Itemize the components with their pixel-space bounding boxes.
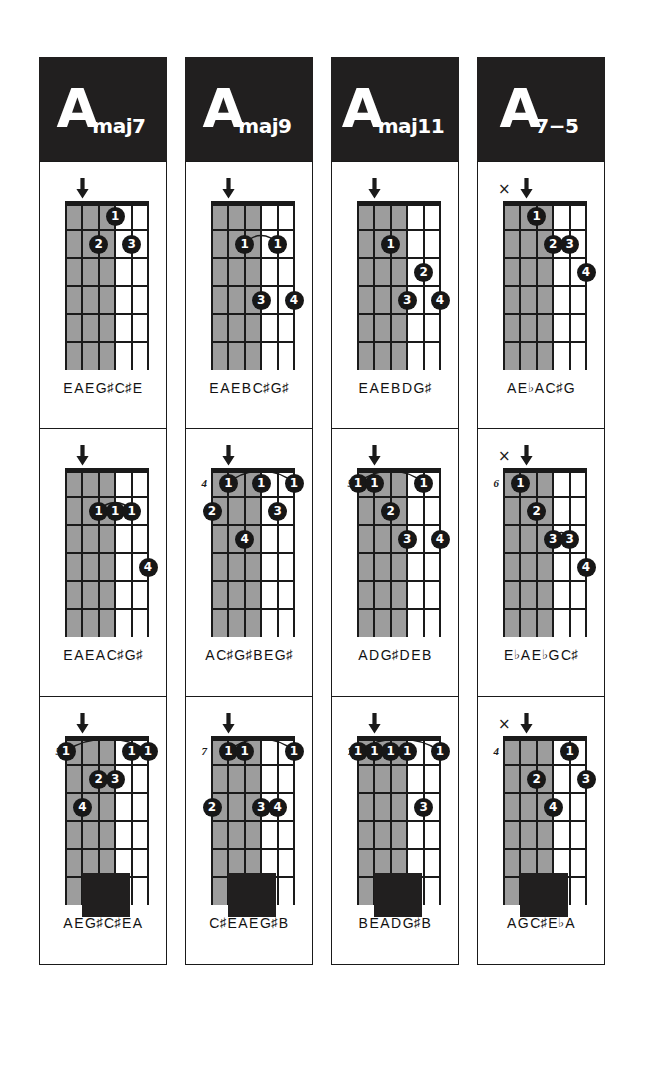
- mute-x-icon: ×: [498, 717, 511, 732]
- top-marks: [352, 713, 444, 735]
- note-name: E: [209, 380, 219, 396]
- chord-diagram-amaj11-v3: 1111137BEADG♯B: [332, 697, 458, 964]
- note-name: B: [242, 380, 252, 396]
- voicing-card-amaj7-v2[interactable]: 1114EAEAC♯G♯: [39, 429, 167, 697]
- sharp-icon: ♯: [220, 915, 227, 930]
- finger-dot: 4: [577, 263, 596, 282]
- note-name: A: [238, 915, 248, 931]
- note-name: G: [518, 915, 529, 931]
- finger-dot: 1: [381, 235, 400, 254]
- finger-dot: 1: [235, 742, 254, 761]
- note-name: A: [565, 915, 575, 931]
- chord-column-amaj11: Amaj111234EAEBDG♯1112345ADG♯DEB1111137BE…: [331, 57, 459, 965]
- top-marks: ×: [498, 445, 590, 467]
- chord-diagram-amaj9-v2: 1112344AC♯G♯BEG♯: [186, 429, 312, 696]
- note-name: C♯: [253, 380, 270, 396]
- fret-line: [212, 285, 294, 287]
- finger-dot: 4: [73, 798, 92, 817]
- note-name: E: [133, 380, 143, 396]
- root-arrow-icon: [368, 445, 381, 466]
- fret-line: [358, 229, 440, 231]
- voicing-card-amaj11-v2[interactable]: 1112345ADG♯DEB: [331, 429, 459, 697]
- note-name: C♯: [209, 915, 226, 931]
- fretboard-grid: 111234: [358, 469, 440, 637]
- fret-line: [504, 524, 586, 526]
- note-name: G♯: [96, 380, 114, 396]
- finger-dot: 1: [511, 474, 530, 493]
- fretboard-grid: 1234: [504, 202, 586, 370]
- voicing-card-a7-5-v3[interactable]: ×12344AGC♯E♭A: [477, 697, 605, 965]
- sharp-icon: ♯: [556, 380, 563, 395]
- note-name: A: [369, 380, 379, 396]
- note-name: E: [359, 380, 369, 396]
- note-name: E: [411, 647, 421, 663]
- finger-dot: 1: [527, 207, 546, 226]
- fret-position-number: 7: [337, 746, 353, 757]
- note-name: A: [220, 380, 230, 396]
- voicing-card-amaj9-v2[interactable]: 1112344AC♯G♯BEG♯: [185, 429, 313, 697]
- note-name: B: [253, 647, 263, 663]
- fret-line: [212, 764, 294, 766]
- note-name: B: [391, 380, 401, 396]
- voicing-card-amaj11-v3[interactable]: 1111137BEADG♯B: [331, 697, 459, 965]
- finger-dot: 1: [414, 474, 433, 493]
- nut-bar: [503, 736, 587, 741]
- note-name: C♯: [530, 915, 547, 931]
- finger-dot: 1: [560, 742, 579, 761]
- finger-dot: 1: [219, 474, 238, 493]
- note-name: E♭: [532, 647, 548, 663]
- column-tab-a7-5: [520, 873, 568, 917]
- chord-diagram-a7-5-v2: ×123346E♭AE♭GC♯: [478, 429, 604, 696]
- fret-line: [358, 792, 440, 794]
- fret-line: [212, 229, 294, 231]
- root-arrow-icon: [222, 445, 235, 466]
- finger-dot: 1: [285, 474, 304, 493]
- fret-line: [358, 580, 440, 582]
- fret-line: [358, 552, 440, 554]
- chord-root-label: A: [500, 77, 540, 140]
- voicing-card-amaj7-v1[interactable]: 123EAEG♯C♯E: [39, 161, 167, 429]
- sharp-icon: ♯: [282, 380, 289, 395]
- fret-position-number: 4: [191, 478, 207, 489]
- voicing-card-a7-5-v2[interactable]: ×123346E♭AE♭GC♯: [477, 429, 605, 697]
- note-name: E: [227, 915, 237, 931]
- note-name: A: [507, 915, 517, 931]
- note-name: A: [63, 915, 73, 931]
- root-arrow-icon: [520, 445, 533, 466]
- column-tab-amaj9: [228, 873, 276, 917]
- note-name: A: [521, 647, 531, 663]
- sharp-icon: ♯: [414, 915, 421, 930]
- fret-line: [504, 820, 586, 822]
- chord-header-amaj9: Amaj9: [185, 57, 313, 161]
- voicing-card-a7-5-v1[interactable]: ×1234AE♭AC♯G: [477, 161, 605, 429]
- finger-dot: 3: [268, 502, 287, 521]
- note-name: A: [535, 380, 545, 396]
- chord-chart-sheet: Amaj7123EAEG♯C♯E1114EAEAC♯G♯1112345AEG♯C…: [0, 0, 650, 1074]
- fret-line: [212, 820, 294, 822]
- chord-root-label: A: [342, 77, 382, 140]
- note-name: A: [133, 915, 143, 931]
- fret-line: [358, 820, 440, 822]
- finger-dot: 3: [398, 530, 417, 549]
- finger-dot: 4: [139, 558, 158, 577]
- finger-dot: 4: [544, 798, 563, 817]
- nut-bar: [211, 468, 295, 473]
- fretboard-grid: 12334: [504, 469, 586, 637]
- fret-line: [66, 257, 148, 259]
- flat-icon: ♭: [528, 380, 534, 395]
- voicing-card-amaj11-v1[interactable]: 1234EAEBDG♯: [331, 161, 459, 429]
- finger-dot: 1: [285, 742, 304, 761]
- sharp-icon: ♯: [115, 915, 122, 930]
- note-name: G♯: [125, 647, 143, 663]
- note-name: C♯: [216, 647, 233, 663]
- fretboard-grid: 1114: [66, 469, 148, 637]
- fret-line: [358, 764, 440, 766]
- sharp-icon: ♯: [263, 380, 270, 395]
- fret-line: [66, 285, 148, 287]
- voicing-card-amaj7-v3[interactable]: 1112345AEG♯C♯EA: [39, 697, 167, 965]
- sharp-icon: ♯: [271, 915, 278, 930]
- voicing-card-amaj9-v3[interactable]: 1112347C♯EAEG♯B: [185, 697, 313, 965]
- voicing-card-amaj9-v1[interactable]: 1134EAEBC♯G♯: [185, 161, 313, 429]
- column-tab-amaj11: [374, 873, 422, 917]
- fret-line: [212, 313, 294, 315]
